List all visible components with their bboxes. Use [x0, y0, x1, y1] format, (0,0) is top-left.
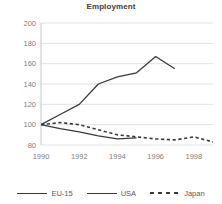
legend-label-japan: Japan	[184, 189, 204, 198]
data-series-group	[41, 57, 213, 142]
y-tick-label: 180	[23, 39, 36, 48]
legend-item-usa[interactable]: USA	[80, 189, 143, 198]
chart-title: Employment	[0, 2, 222, 11]
plot-svg: 80100120140160180200 1990199219941996199…	[0, 17, 222, 165]
y-tick-label: 80	[28, 141, 36, 150]
x-axis-tick-labels: 19901992199419961998	[33, 152, 203, 161]
solid-line-swatch-icon	[87, 189, 117, 198]
y-tick-label: 100	[23, 120, 36, 129]
legend-item-eu-15[interactable]: EU-15	[10, 189, 79, 198]
x-tick-label: 1992	[71, 152, 88, 161]
x-tick-label: 1994	[109, 152, 126, 161]
legend-label-usa: USA	[121, 189, 136, 198]
chart-legend: EU-15 USA Japan	[0, 183, 222, 203]
employment-line-chart: Employment 80100120140160180200 19901992…	[0, 0, 222, 204]
y-axis-tick-labels: 80100120140160180200	[23, 19, 36, 150]
x-tick-label: 1996	[147, 152, 164, 161]
series-line-japan	[41, 123, 213, 142]
x-tick-label: 1990	[33, 152, 50, 161]
legend-label-eu-15: EU-15	[51, 189, 72, 198]
y-tick-label: 200	[23, 19, 36, 28]
legend-item-japan[interactable]: Japan	[143, 189, 211, 198]
y-tick-label: 160	[23, 59, 36, 68]
solid-line-swatch-icon	[17, 189, 47, 198]
gridlines-group	[41, 23, 213, 145]
x-tick-label: 1998	[186, 152, 203, 161]
y-tick-label: 140	[23, 80, 36, 89]
series-line-usa	[41, 57, 175, 125]
dashed-line-swatch-icon	[150, 189, 180, 198]
y-tick-label: 120	[23, 100, 36, 109]
plot-area: 80100120140160180200 1990199219941996199…	[0, 17, 222, 165]
